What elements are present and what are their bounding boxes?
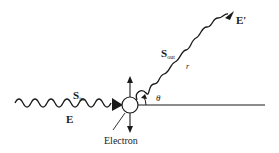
angle-arrow-icon [141,94,147,99]
incident-field-label: E [66,113,73,125]
incident-poynting-label: Sin [73,89,84,102]
scattered-poynting-label: Sout [161,47,175,60]
incident-wave [15,99,111,107]
distance-label: r [186,62,190,71]
scattered-field-label: E′ [236,14,246,26]
scattered-wave [136,14,228,100]
arrow-up-icon [127,76,133,83]
thomson-scattering-diagram: Sin E Sout r E′ θ Electron [0,0,279,153]
arrow-down-icon [127,126,133,133]
electron-label: Electron [104,135,138,146]
angle-label: θ [156,93,161,103]
scattered-arrowhead-icon [225,11,234,20]
incident-arrowhead-icon [112,98,123,111]
electron-pointer [113,113,125,130]
electron-circle [122,97,138,113]
